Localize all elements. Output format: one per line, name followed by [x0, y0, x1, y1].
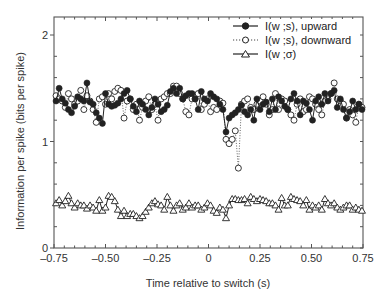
legend-label-upward: I(w ;s), upward [265, 20, 337, 32]
axis-tick-labels: –0.75–0.50–0.2500.250.500.75012 [40, 29, 373, 264]
legend-label-downward: I(w ;s), downward [265, 34, 351, 46]
x-tick-label: 0.75 [352, 252, 373, 264]
information-per-spike-chart: –0.75–0.50–0.2500.250.500.75012 Time rel… [0, 0, 389, 298]
legend-label-sigma: I(w ;σ) [265, 48, 296, 60]
open-circle-icon [243, 37, 249, 43]
data-series [53, 80, 366, 221]
x-tick-label: –0.50 [92, 252, 120, 264]
y-tick-label: 2 [42, 29, 48, 41]
y-tick-label: 1 [42, 136, 48, 148]
filled-circle-icon [242, 23, 248, 29]
y-tick-label: 0 [42, 242, 48, 254]
series-open-triangle [53, 192, 366, 220]
legend: I(w ;s), upward I(w ;s), downward I(w ;σ… [230, 19, 360, 63]
x-tick-label: 0.50 [301, 252, 322, 264]
x-axis-label: Time relative to switch (s) [146, 277, 270, 289]
x-tick-label: –0.25 [143, 252, 171, 264]
x-tick-label: 0.25 [249, 252, 270, 264]
y-axis-label: Information per spike (bits per spike) [14, 52, 26, 230]
x-tick-label: 0 [205, 252, 211, 264]
